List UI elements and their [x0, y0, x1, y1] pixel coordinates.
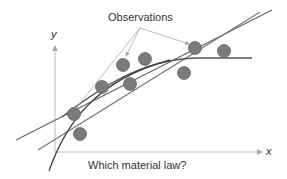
steep-fit: [49, 60, 170, 171]
question-caption: Which material law?: [88, 159, 186, 171]
x-axis-label: x: [266, 145, 272, 157]
diagram-canvas: [0, 0, 287, 179]
arrow-to-obs: [77, 28, 140, 107]
saturating-fit: [62, 58, 252, 117]
y-axis-label: y: [51, 28, 57, 40]
arrow-to-obs: [140, 28, 189, 44]
observation-points: [68, 42, 231, 141]
observations-label: Observations: [108, 11, 173, 23]
linear-fit-2: [38, 12, 260, 150]
arrow-to-obs: [126, 28, 140, 56]
